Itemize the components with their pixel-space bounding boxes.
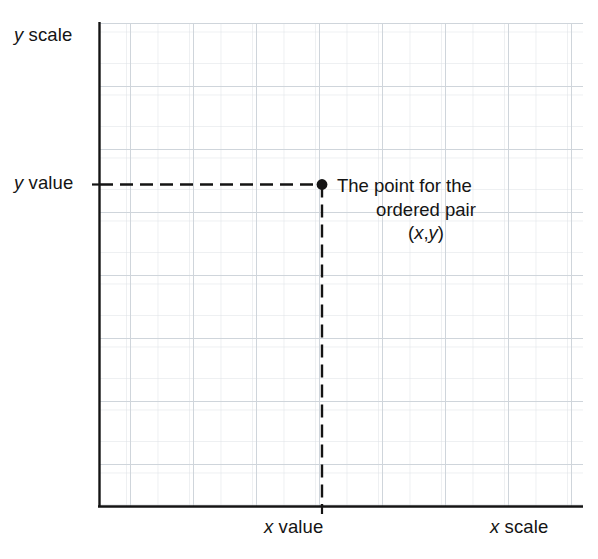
y-value-label-text: value: [23, 172, 73, 193]
grid-lines: [99, 24, 583, 507]
annotation-line-3-ordered-pair: (x,y): [337, 221, 515, 245]
x-value-label-text: value: [273, 516, 323, 537]
coordinate-plane-svg: [0, 0, 598, 559]
x-scale-label: x scale: [490, 518, 548, 537]
point-annotation: The point for the ordered pair (x,y): [337, 174, 515, 245]
x-scale-label-text: scale: [499, 516, 548, 537]
y-scale-label: y scale: [14, 26, 72, 45]
paren-close: ): [438, 222, 444, 243]
plotted-point-marker: [317, 179, 328, 190]
y-scale-label-symbol: y: [14, 24, 23, 45]
y-value-label: y value: [14, 174, 73, 193]
annotation-line-2: ordered pair: [337, 198, 515, 222]
x-value-label-symbol: x: [264, 516, 273, 537]
annotation-line-1: The point for the: [337, 174, 515, 198]
y-value-label-symbol: y: [14, 172, 23, 193]
y-scale-label-text: scale: [23, 24, 72, 45]
x-value-label: x value: [264, 518, 323, 537]
coordinate-plane-figure: y scale y value x value x scale The poin…: [0, 0, 598, 559]
ordered-pair-y: y: [429, 222, 438, 243]
x-scale-label-symbol: x: [490, 516, 499, 537]
